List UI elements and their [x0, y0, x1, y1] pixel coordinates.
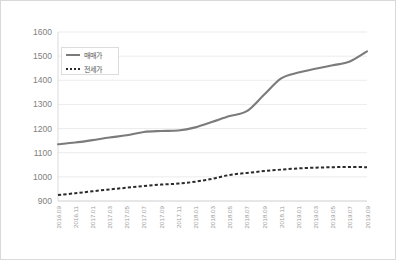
- x-axis-tick-labels: 2016.092016.112017.012017.032017.052017.…: [55, 205, 371, 228]
- svg-text:2018.07: 2018.07: [243, 205, 250, 228]
- legend-item-maemaega: 매매가: [62, 48, 118, 62]
- svg-text:2016.11: 2016.11: [72, 205, 79, 227]
- svg-text:2019.03: 2019.03: [312, 205, 319, 228]
- svg-text:2017.07: 2017.07: [140, 205, 147, 228]
- legend-label-jeonsega: 전세가: [84, 64, 102, 74]
- svg-text:2018.09: 2018.09: [261, 205, 268, 228]
- svg-text:2017.11: 2017.11: [175, 205, 182, 227]
- svg-text:2018.03: 2018.03: [209, 205, 216, 228]
- svg-text:2018.11: 2018.11: [278, 205, 285, 227]
- svg-text:2017.05: 2017.05: [123, 205, 130, 228]
- svg-text:2016.09: 2016.09: [55, 205, 62, 228]
- legend-swatch-solid-line-icon: [66, 54, 80, 56]
- svg-text:1400: 1400: [33, 75, 52, 85]
- svg-text:1100: 1100: [34, 148, 53, 158]
- chart-legend: 매매가 전세가: [61, 47, 119, 75]
- legend-swatch-dashed-line-icon: [66, 68, 80, 70]
- svg-text:1000: 1000: [33, 172, 52, 182]
- svg-text:2017.03: 2017.03: [106, 205, 113, 228]
- svg-text:1200: 1200: [33, 124, 52, 134]
- y-axis-tick-labels: 9001000110012001300140015001600: [33, 27, 52, 206]
- svg-text:2019.01: 2019.01: [295, 205, 302, 228]
- svg-text:2017.09: 2017.09: [158, 205, 165, 228]
- svg-text:2019.09: 2019.09: [364, 205, 371, 228]
- svg-text:2019.05: 2019.05: [329, 205, 336, 228]
- svg-text:1600: 1600: [33, 27, 52, 37]
- svg-text:1500: 1500: [33, 51, 52, 61]
- svg-text:900: 900: [38, 196, 52, 206]
- svg-text:2017.01: 2017.01: [89, 205, 96, 228]
- line-chart-canvas: 9001000110012001300140015001600 2016.092…: [1, 1, 396, 260]
- legend-label-maemaega: 매매가: [84, 50, 102, 60]
- legend-item-jeonsega: 전세가: [62, 62, 118, 76]
- series-line-1: [58, 167, 367, 195]
- chart-figure: 9001000110012001300140015001600 2016.092…: [0, 0, 396, 260]
- svg-text:2019.07: 2019.07: [346, 205, 353, 228]
- svg-text:1300: 1300: [33, 99, 52, 109]
- svg-text:2018.05: 2018.05: [226, 205, 233, 228]
- svg-text:2018.01: 2018.01: [192, 205, 199, 228]
